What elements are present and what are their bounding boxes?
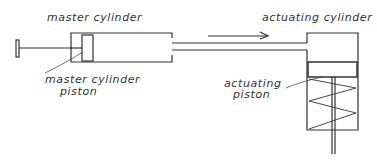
label-master-cylinder-piston-line1: master cylinder — [45, 74, 140, 85]
push-rod-handle — [16, 40, 19, 57]
label-actuating-cylinder: actuating cylinder — [262, 12, 372, 23]
label-actuating-piston-line2: piston — [233, 89, 270, 100]
label-master-cylinder-piston-line2: piston — [60, 86, 97, 97]
flow-arrow-icon — [208, 32, 268, 39]
master-cylinder-piston — [82, 35, 93, 61]
label-master-cylinder: master cylinder — [47, 12, 142, 23]
hydraulic-diagram: master cylinder master cylinder piston a… — [0, 0, 377, 164]
leader-actuating-piston — [286, 77, 322, 88]
master-cylinder-body — [71, 33, 172, 62]
actuating-piston — [308, 62, 357, 77]
